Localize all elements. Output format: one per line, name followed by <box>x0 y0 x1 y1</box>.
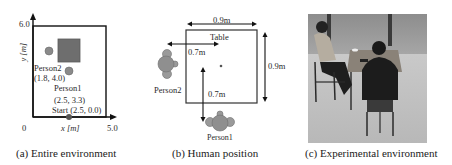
caption-c: (c) Experimental environment <box>305 148 438 159</box>
photo-object-on-table <box>360 59 368 62</box>
experiment-photo <box>0 0 452 165</box>
photo-cup <box>352 49 358 52</box>
photo-curtain-right <box>388 14 392 46</box>
